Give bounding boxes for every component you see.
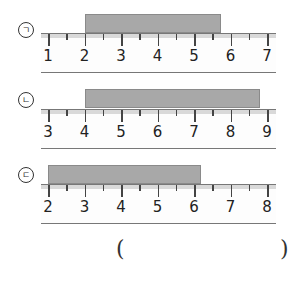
- ruler-number: 8: [221, 123, 241, 141]
- ruler-tick: [158, 185, 160, 197]
- ruler-tick: [66, 185, 68, 191]
- ruler-number: 3: [38, 123, 58, 141]
- ruler-tick: [176, 185, 178, 191]
- ruler-tick: [158, 110, 160, 122]
- ruler-number: 3: [75, 198, 95, 216]
- ruler-tick: [267, 185, 269, 197]
- ruler-tick: [231, 110, 233, 122]
- ruler-number: 7: [221, 198, 241, 216]
- ruler-tick: [267, 110, 269, 122]
- ruler-tick: [194, 185, 196, 197]
- measured-bar-b: [85, 89, 260, 108]
- measured-bar-c: [48, 165, 201, 184]
- ruler-tick: [139, 110, 141, 116]
- ruler-number: 6: [184, 198, 204, 216]
- ruler-tick: [212, 185, 214, 191]
- ruler-tick: [212, 110, 214, 116]
- ruler-tick: [103, 185, 105, 191]
- ruler-number: 7: [184, 123, 204, 141]
- close-paren: ): [280, 236, 289, 261]
- ruler-c: 2345678: [41, 184, 276, 224]
- ruler-tick: [249, 185, 251, 191]
- ruler-number: 6: [148, 123, 168, 141]
- ruler-tick: [48, 110, 50, 122]
- ruler-tick: [231, 185, 233, 197]
- ruler-tick: [139, 185, 141, 191]
- ruler-b: 3456789: [41, 109, 276, 149]
- ruler-tick: [103, 110, 105, 116]
- ruler-number: 5: [111, 123, 131, 141]
- ruler-number: 9: [257, 123, 277, 141]
- ruler-tick: [249, 110, 251, 116]
- label-c: ㄷ: [18, 167, 34, 183]
- problem-c: ㄷ 2345678: [0, 0, 298, 75]
- label-b: ㄴ: [18, 92, 34, 108]
- ruler-tick: [176, 110, 178, 116]
- ruler-tick: [194, 110, 196, 122]
- ruler-tick: [121, 185, 123, 197]
- ruler-tick: [85, 110, 87, 122]
- ruler-tick: [85, 185, 87, 197]
- ruler-number: 5: [148, 198, 168, 216]
- ruler-number: 4: [111, 198, 131, 216]
- open-paren: (: [116, 236, 125, 261]
- ruler-number: 4: [75, 123, 95, 141]
- ruler-number: 8: [257, 198, 277, 216]
- answer-blank[interactable]: ( ): [0, 236, 298, 266]
- ruler-number: 2: [38, 198, 58, 216]
- ruler-tick: [48, 185, 50, 197]
- ruler-tick: [66, 110, 68, 116]
- ruler-tick: [121, 110, 123, 122]
